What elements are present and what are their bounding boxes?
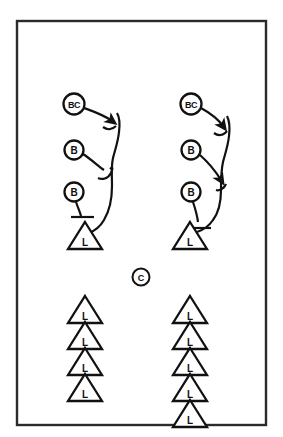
play-diagram-canvas: BC B B L (0, 0, 283, 437)
node-right-b1[interactable]: B (182, 141, 201, 160)
node-left-bc[interactable]: BC (64, 94, 85, 115)
node-right-bc[interactable]: BC (181, 94, 202, 115)
node-left-b2[interactable]: B (65, 183, 84, 202)
play-diagram-svg: BC B B L (0, 0, 283, 437)
node-center-c[interactable]: C (133, 269, 150, 286)
diagram-frame (17, 21, 266, 425)
node-left-b1[interactable]: B (65, 141, 84, 160)
node-right-b2[interactable]: B (182, 183, 201, 202)
